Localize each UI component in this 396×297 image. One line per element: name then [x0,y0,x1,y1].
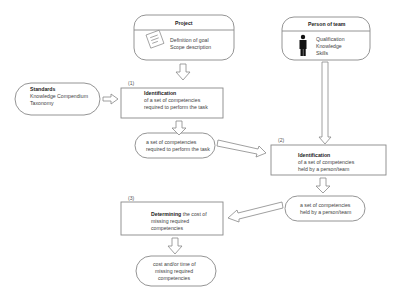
step1-line-2: required to perform the task [144,104,208,110]
arrow-standards-step1 [103,94,118,104]
result3-line-1: cost and/or time of [153,261,196,267]
result3-line-2: missing required [155,268,193,274]
person-title: Person of team [308,21,345,27]
person-line-2: Knowledge [316,43,342,49]
step3-line-2: competencies [151,225,183,231]
arrow-step3-result3 [168,238,182,254]
project-line-1: Definition of goal [170,37,209,43]
step3-number: (3) [128,195,134,201]
standards-title: Standards [30,86,55,92]
person-line-3: Skills [316,50,328,56]
result1-line-2: required to perform the task [146,146,210,152]
step2-number: (2) [278,137,284,143]
result2-line-2: held by a person/team [300,209,351,215]
arrow-result1-step2 [217,140,266,157]
project-line-2: Scope description [170,44,211,50]
arrow-result2-step3 [228,202,283,222]
standards-line-2: Taxonomy [30,100,54,106]
step1-number: (1) [128,80,134,86]
arrow-person-step2 [319,62,331,144]
step2-line-1: of a set of competencies [298,159,354,165]
step3-title: Determining the cost of [151,211,207,217]
step3-line-1: missing required [151,218,189,224]
person-line-1: Qualification [316,36,345,42]
arrow-project-step1 [176,64,190,80]
step2-title: Identification [298,152,330,158]
step3-title-bold: Determining [151,211,181,217]
result2-line-1: a set of competencies [300,202,350,208]
step2-line-2: held by a person/team [298,166,349,172]
arrow-step2-result2 [316,178,330,193]
step1-title: Identification [144,90,176,96]
result3-line-3: competencies [158,275,190,281]
result1-line-1: a set of competencies [146,139,196,145]
standards-line-1: Knowledge Compendium [30,93,88,99]
step1-line-1: of a set of competencies [144,97,200,103]
project-title: Project [175,20,193,26]
step3-title-rest: the cost of [181,211,206,217]
